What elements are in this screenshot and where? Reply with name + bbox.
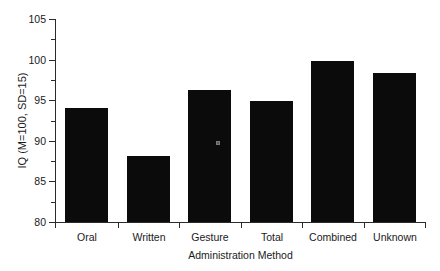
bar-written xyxy=(127,156,170,222)
y-axis-minor-tick xyxy=(51,39,55,40)
y-axis-minor-tick xyxy=(51,121,55,122)
y-axis-major-tick xyxy=(49,181,55,182)
x-axis-tick xyxy=(118,223,119,228)
scan-speck-artifact xyxy=(216,141,220,145)
y-axis-tick-labels: 80859095100105 xyxy=(16,0,46,271)
x-axis-tick xyxy=(241,223,242,228)
y-axis-tick-label: 100 xyxy=(20,55,46,65)
x-axis-title: Administration Method xyxy=(56,249,425,261)
y-axis-tick-label: 80 xyxy=(20,217,46,227)
y-axis-minor-tick xyxy=(51,80,55,81)
x-axis-tick xyxy=(302,223,303,228)
y-axis-tick-label: 95 xyxy=(20,95,46,105)
x-axis-category-label-oral: Oral xyxy=(56,231,118,243)
x-axis-category-label-unknown: Unknown xyxy=(364,231,426,243)
y-axis-tick-label: 105 xyxy=(20,14,46,24)
y-axis-minor-tick xyxy=(51,161,55,162)
bar-unknown xyxy=(373,73,416,222)
x-axis-tick xyxy=(179,223,180,228)
x-axis-tick xyxy=(55,223,56,228)
bar-combined xyxy=(311,61,354,222)
bar-gesture xyxy=(188,90,231,222)
y-axis-line xyxy=(55,19,56,223)
bar-oral xyxy=(65,108,108,222)
x-axis-category-label-gesture: Gesture xyxy=(179,231,241,243)
bar-total xyxy=(250,101,293,222)
y-axis-tick-label: 85 xyxy=(20,176,46,186)
x-axis-category-label-total: Total xyxy=(241,231,303,243)
y-axis-minor-tick xyxy=(51,202,55,203)
x-axis-category-label-written: Written xyxy=(118,231,180,243)
y-axis-major-tick xyxy=(49,141,55,142)
x-axis-tick xyxy=(425,223,426,228)
y-axis-tick-label: 90 xyxy=(20,136,46,146)
y-axis-major-tick xyxy=(49,100,55,101)
x-axis-category-label-combined: Combined xyxy=(302,231,364,243)
y-axis-major-tick xyxy=(49,19,55,20)
bar-chart: IQ (M=100, SD=15) 80859095100105 OralWri… xyxy=(0,0,440,271)
x-axis-tick xyxy=(364,223,365,228)
y-axis-major-tick xyxy=(49,60,55,61)
